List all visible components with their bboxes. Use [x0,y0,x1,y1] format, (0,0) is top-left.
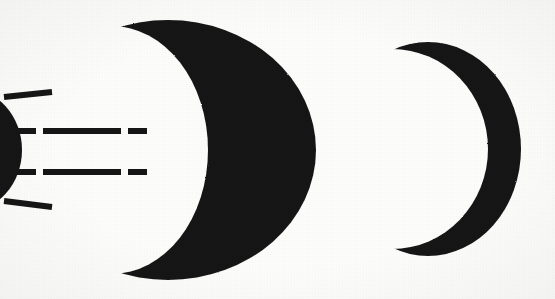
figure-canvas [0,0,555,299]
small-crescent-fill [0,0,555,299]
small-crescent [0,0,555,299]
moon-phase-figure [0,0,555,299]
